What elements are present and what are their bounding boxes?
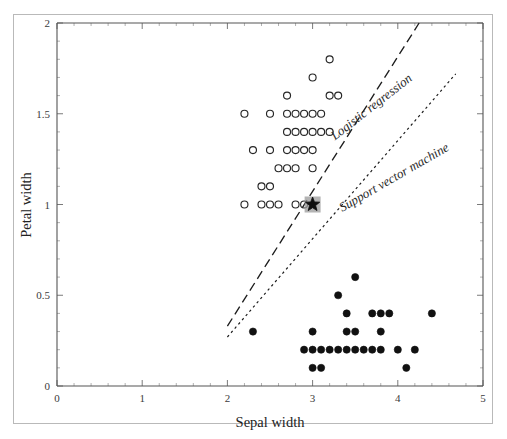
data-point-open <box>301 128 308 135</box>
y-tick-label: 1.5 <box>36 108 50 120</box>
data-point-open <box>301 110 308 117</box>
y-tick-label: 0 <box>45 380 51 392</box>
data-point-open <box>326 92 333 99</box>
y-tick-label-group: 00.511.52 <box>36 17 50 392</box>
data-point-filled <box>377 346 384 353</box>
data-point-filled <box>309 328 316 335</box>
x-axis-title: Sepal width <box>236 414 306 430</box>
minor-tick-group <box>57 23 483 386</box>
x-tick-label: 1 <box>139 392 145 404</box>
data-point-filled <box>335 292 342 299</box>
data-point-open <box>309 165 316 172</box>
data-point-open <box>309 74 316 81</box>
data-point-open <box>292 165 299 172</box>
data-point-filled <box>309 364 316 371</box>
data-point-open <box>267 147 274 154</box>
annotation-label-group: Logistic regressionSupport vector machin… <box>327 70 452 214</box>
data-point-open <box>318 110 325 117</box>
y-axis-title: Petal width <box>18 171 34 237</box>
data-point-open <box>309 128 316 135</box>
data-point-filled <box>309 346 316 353</box>
data-point-filled <box>318 346 325 353</box>
data-point-open <box>292 201 299 208</box>
data-point-filled <box>369 310 376 317</box>
data-point-open <box>318 128 325 135</box>
data-point-open <box>292 110 299 117</box>
y-tick-label: 2 <box>45 17 51 29</box>
data-point-filled <box>318 364 325 371</box>
boundary-annotation-label: Support vector machine <box>336 139 451 214</box>
data-point-open <box>284 165 291 172</box>
data-point-open <box>326 56 333 63</box>
data-series-group <box>241 56 436 372</box>
data-point-open <box>309 147 316 154</box>
data-point-filled <box>403 364 410 371</box>
data-point-open <box>284 92 291 99</box>
data-point-open <box>335 92 342 99</box>
data-point-filled <box>343 328 350 335</box>
data-point-filled <box>377 310 384 317</box>
x-tick-label: 4 <box>395 392 401 404</box>
decision-boundary-group <box>227 23 455 337</box>
boundary-annotation-label: Logistic regression <box>327 70 415 143</box>
y-tick-label: 0.5 <box>36 289 50 301</box>
major-tick-group <box>57 23 483 386</box>
data-point-filled <box>360 346 367 353</box>
x-tick-label: 3 <box>310 392 316 404</box>
data-point-open <box>284 147 291 154</box>
data-point-open <box>258 183 265 190</box>
data-point-filled <box>343 310 350 317</box>
data-point-open <box>267 110 274 117</box>
figure-root: 012345 00.511.52 Sepal width Petal width… <box>0 0 507 439</box>
data-point-filled <box>377 328 384 335</box>
scatter-plot-canvas: 012345 00.511.52 Sepal width Petal width… <box>0 0 507 439</box>
data-point-open <box>292 147 299 154</box>
data-point-filled <box>411 346 418 353</box>
data-point-open <box>267 201 274 208</box>
data-point-filled <box>352 346 359 353</box>
data-point-open <box>267 183 274 190</box>
data-point-filled <box>428 310 435 317</box>
data-point-open <box>301 147 308 154</box>
data-point-open <box>249 147 256 154</box>
data-point-filled <box>352 328 359 335</box>
data-point-filled <box>335 346 342 353</box>
data-point-filled <box>343 346 350 353</box>
data-point-open <box>284 110 291 117</box>
data-point-open <box>309 110 316 117</box>
data-point-open <box>258 201 265 208</box>
x-tick-label: 0 <box>54 392 60 404</box>
data-point-open <box>241 201 248 208</box>
data-point-filled <box>394 346 401 353</box>
data-point-filled <box>369 346 376 353</box>
data-point-open <box>284 128 291 135</box>
data-point-open <box>292 128 299 135</box>
x-tick-label: 5 <box>480 392 486 404</box>
data-point-filled <box>352 274 359 281</box>
data-point-open <box>241 110 248 117</box>
x-tick-label: 2 <box>225 392 231 404</box>
data-point-open <box>275 201 282 208</box>
y-tick-label: 1 <box>45 199 51 211</box>
data-point-filled <box>300 346 307 353</box>
data-point-filled <box>326 346 333 353</box>
data-point-filled <box>386 310 393 317</box>
data-point-open <box>275 165 282 172</box>
x-tick-label-group: 012345 <box>54 392 486 404</box>
data-point-filled <box>249 328 256 335</box>
